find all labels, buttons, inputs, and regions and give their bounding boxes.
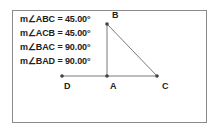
label-c: C	[162, 81, 169, 91]
segment-bc[interactable]	[107, 24, 157, 76]
point-b[interactable]	[105, 22, 109, 26]
label-d: D	[64, 81, 71, 91]
label-b: B	[112, 10, 119, 20]
point-d[interactable]	[60, 74, 64, 78]
label-a: A	[110, 81, 117, 91]
point-a[interactable]	[105, 74, 109, 78]
geometry-canvas	[0, 0, 209, 132]
point-c[interactable]	[155, 74, 159, 78]
